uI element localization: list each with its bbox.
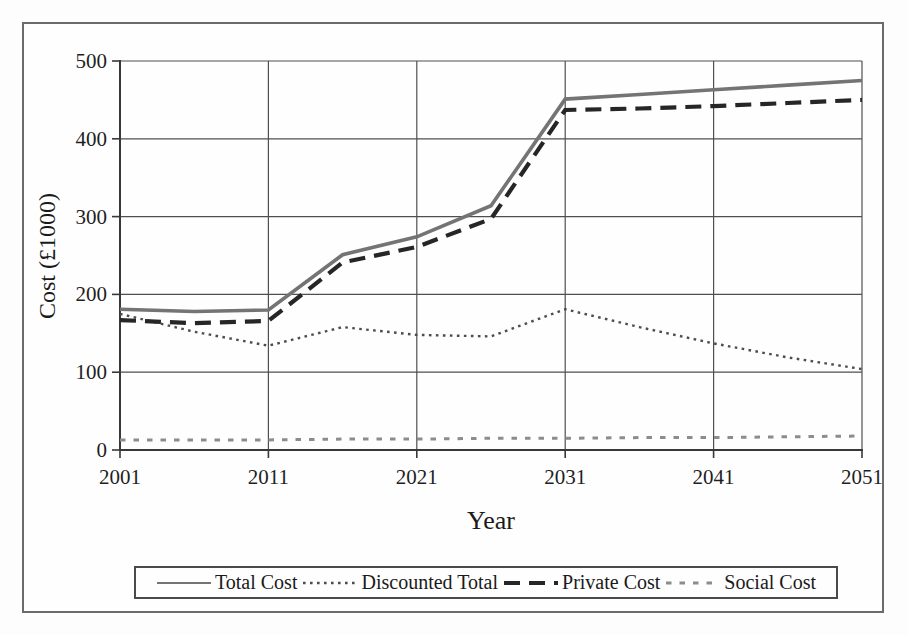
legend-item-total-cost: Total Cost bbox=[156, 571, 298, 594]
discounted-total-line-sample-icon bbox=[302, 576, 358, 590]
line-chart: 0100200300400500200120112021203120412051 bbox=[0, 0, 908, 635]
y-tick-label: 500 bbox=[76, 49, 108, 73]
legend-item-social-cost: Social Cost bbox=[665, 571, 816, 594]
legend-label: Total Cost bbox=[215, 571, 298, 594]
x-tick-label: 2021 bbox=[396, 465, 438, 489]
legend-item-private-cost: Private Cost bbox=[503, 571, 660, 594]
legend: Total Cost Discounted Total Private Cost… bbox=[134, 566, 838, 599]
x-tick-label: 2041 bbox=[693, 465, 735, 489]
y-tick-label: 0 bbox=[97, 438, 108, 462]
total-cost-line-sample-icon bbox=[156, 576, 212, 590]
series-line-social-cost bbox=[120, 436, 862, 440]
y-tick-label: 300 bbox=[76, 205, 108, 229]
private-cost-line-sample-icon bbox=[503, 576, 559, 590]
x-tick-label: 2011 bbox=[248, 465, 289, 489]
y-tick-label: 200 bbox=[76, 282, 108, 306]
legend-label: Private Cost bbox=[562, 571, 660, 594]
x-tick-label: 2031 bbox=[544, 465, 586, 489]
legend-label: Discounted Total bbox=[361, 571, 498, 594]
social-cost-line-sample-icon bbox=[665, 576, 721, 590]
legend-label: Social Cost bbox=[724, 571, 816, 594]
x-tick-label: 2001 bbox=[99, 465, 141, 489]
x-axis-title: Year bbox=[467, 506, 515, 536]
y-axis-title: Cost (£1000) bbox=[34, 193, 61, 319]
y-tick-label: 400 bbox=[76, 127, 108, 151]
series-line-total-cost bbox=[120, 81, 862, 312]
chart-page: 0100200300400500200120112021203120412051… bbox=[0, 0, 908, 635]
legend-item-discounted-total: Discounted Total bbox=[302, 571, 498, 594]
y-tick-label: 100 bbox=[76, 360, 108, 384]
series-line-discounted-total bbox=[120, 309, 862, 369]
series-line-private-cost bbox=[120, 100, 862, 323]
x-tick-label: 2051 bbox=[841, 465, 883, 489]
